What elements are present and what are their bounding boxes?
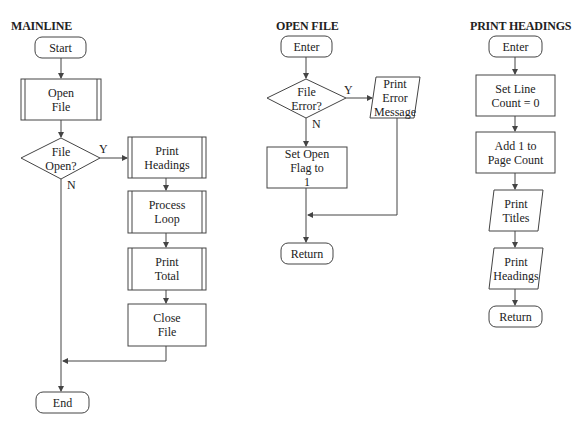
start-terminal: Start <box>35 37 86 58</box>
file-open-decision: File Open? <box>21 138 101 179</box>
return-terminal: Return <box>489 306 542 327</box>
yes-label: Y <box>344 83 353 98</box>
print-error-message-io: Print Error Message <box>370 77 420 118</box>
enter-terminal: Enter <box>281 36 332 57</box>
end-terminal: End <box>36 392 89 413</box>
return-terminal: Return <box>281 243 333 264</box>
set-open-flag-process: Set Open Flag to 1 <box>267 147 347 188</box>
no-label: N <box>312 117 321 132</box>
yes-label: Y <box>99 142 108 157</box>
print-headings-io: Print Headings <box>489 248 543 289</box>
close-file-process: Close File <box>128 304 206 346</box>
process-loop-process: Process Loop <box>128 191 206 233</box>
no-label: N <box>67 178 76 193</box>
open-file-title: OPEN FILE <box>276 19 339 34</box>
print-headings-process: Print Headings <box>128 137 206 178</box>
print-titles-io: Print Titles <box>489 190 543 231</box>
set-line-count-process: Set Line Count = 0 <box>476 75 555 116</box>
open-file-process: Open File <box>21 79 101 120</box>
print-total-process: Print Total <box>128 248 206 290</box>
mainline-title: MAINLINE <box>11 19 72 34</box>
print-headings-title: PRINT HEADINGS <box>470 19 571 34</box>
file-error-decision: File Error? <box>267 79 346 118</box>
enter-terminal: Enter <box>489 36 542 57</box>
add-page-count-process: Add 1 to Page Count <box>476 132 555 173</box>
